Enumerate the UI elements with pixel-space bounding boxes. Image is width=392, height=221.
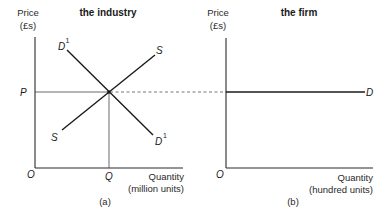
y-axis-unit-a: (£s) bbox=[20, 20, 36, 31]
firm-demand-label: D bbox=[366, 87, 373, 98]
panel-title-a: the industry bbox=[79, 7, 137, 18]
demand-superscript-top: 1 bbox=[66, 37, 70, 44]
x-axis-unit-b: (hundred units) bbox=[309, 184, 373, 195]
panel-industry: Price (£s) the industry D 1 S S D 1 P O … bbox=[17, 7, 184, 207]
price-label-p: P bbox=[20, 87, 27, 98]
y-axis-label-b: Price bbox=[207, 7, 229, 18]
panel-caption-b: (b) bbox=[287, 196, 299, 207]
demand-superscript-bottom: 1 bbox=[163, 132, 167, 139]
demand-label-top: D bbox=[58, 41, 65, 52]
x-axis-label-b: Quantity bbox=[338, 172, 374, 183]
panel-title-b: the firm bbox=[281, 7, 318, 18]
panel-firm: Price (£s) the firm D O Quantity (hundre… bbox=[207, 7, 373, 207]
supply-label-top: S bbox=[156, 45, 163, 56]
y-axis-unit-b: (£s) bbox=[210, 20, 226, 31]
y-axis-label-a: Price bbox=[17, 7, 39, 18]
origin-label-b: O bbox=[216, 169, 224, 180]
x-axis-unit-a: (million units) bbox=[128, 183, 184, 194]
demand-label-bottom: D bbox=[155, 136, 162, 147]
x-axis-label-a: Quantity bbox=[149, 171, 185, 182]
panel-caption-a: (a) bbox=[99, 196, 111, 207]
supply-label-bottom: S bbox=[51, 132, 58, 143]
quantity-label-q: Q bbox=[105, 171, 113, 182]
perfect-competition-diagram: Price (£s) the industry D 1 S S D 1 P O … bbox=[0, 0, 392, 221]
origin-label-a: O bbox=[27, 169, 35, 180]
